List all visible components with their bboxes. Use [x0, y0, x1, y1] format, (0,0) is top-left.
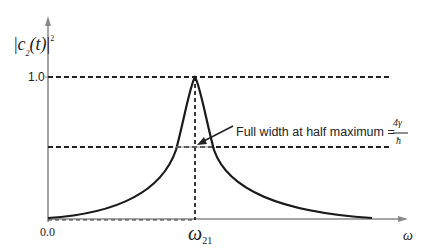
xtick-label-peak: ω21: [188, 222, 212, 245]
fraction-numerator: 4γ: [393, 117, 402, 128]
arrow-head-icon: [197, 137, 207, 145]
x-axis-arrow-icon: [398, 216, 408, 222]
xtick-label-0: 0.0: [40, 225, 55, 240]
fwhm-annotation: Full width at half maximum =: [236, 125, 395, 139]
fraction-denominator: ħ: [396, 135, 401, 146]
x-axis-label: ω: [403, 228, 413, 244]
y-axis-arrow-icon: [45, 16, 51, 26]
y-axis-label: |c2(t)|2: [14, 34, 54, 55]
ytick-label-1: 1.0: [28, 70, 45, 84]
